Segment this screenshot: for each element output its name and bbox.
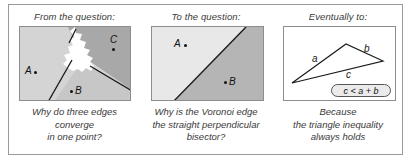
caption-line: Why is the Voronoi edge <box>142 106 270 119</box>
voronoi-three-cells-diagram: A B C <box>19 26 131 101</box>
panel-caption-from-the-question: Why do three edges converge in one point… <box>11 106 138 144</box>
site-dot-c <box>112 48 115 51</box>
edge-label-a: a <box>312 54 318 64</box>
panel-caption-to-the-question: Why is the Voronoi edge the straight per… <box>142 106 270 144</box>
site-dot-b <box>70 90 73 93</box>
site-label-b: B <box>229 77 236 87</box>
caption-line: Because <box>274 106 402 119</box>
caption-line: the straight perpendicular <box>142 119 270 132</box>
edge-label-c: c <box>346 70 351 80</box>
site-dot-a <box>184 44 187 47</box>
triangle-inequality-diagram: a b c c < a + b <box>283 26 396 101</box>
voronoi-two-cells-diagram: A B <box>151 26 264 101</box>
panel-heading-from-the-question: From the question: <box>9 11 140 22</box>
figure-container: From the question: A B C <box>8 4 403 155</box>
caption-line: always holds <box>274 131 402 144</box>
voronoi-two-cells-svg <box>152 27 264 101</box>
panel-caption-eventually-to: Because the triangle inequality always h… <box>274 106 402 144</box>
panel-eventually-to: Eventually to: a b c c < a + b Because t… <box>272 5 404 154</box>
edge-label-b: b <box>364 44 370 54</box>
caption-line: Why do three edges <box>11 106 138 119</box>
panel-from-the-question: From the question: A B C <box>9 5 140 154</box>
panel-heading-to-the-question: To the question: <box>140 11 272 22</box>
site-label-a: A <box>25 66 32 76</box>
caption-line: converge <box>11 119 138 132</box>
site-label-b: B <box>75 86 82 96</box>
caption-line: bisector? <box>142 131 270 144</box>
panel-to-the-question: To the question: A B Why is the Voronoi … <box>140 5 272 154</box>
site-label-a: A <box>174 39 181 49</box>
site-dot-a <box>34 71 37 74</box>
site-label-c: C <box>110 35 117 45</box>
triangle-inequality-badge: c < a + b <box>331 84 391 97</box>
caption-line: in one point? <box>11 131 138 144</box>
caption-line: the triangle inequality <box>274 119 402 132</box>
site-dot-b <box>224 81 227 84</box>
panel-heading-eventually-to: Eventually to: <box>272 11 404 22</box>
